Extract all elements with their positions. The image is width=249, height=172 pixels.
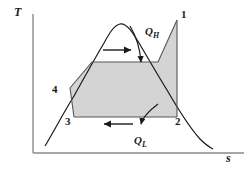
heat-rejected-label: QL [134, 135, 147, 149]
state-label-1: 1 [181, 9, 187, 20]
state-label-3: 3 [65, 116, 71, 127]
heat-input-label: QH [145, 26, 159, 40]
state-label-4: 4 [52, 84, 58, 95]
state-label-2: 2 [175, 116, 181, 127]
x-axis-label: s [226, 152, 231, 164]
heat-input-subscript: H [153, 31, 159, 40]
ts-diagram-figure: T s 1 2 3 4 QH QL [0, 0, 249, 172]
heat-rejected-subscript: L [142, 140, 147, 149]
heat-rejected-symbol: Q [134, 134, 142, 146]
diagram-canvas [0, 0, 249, 172]
y-axis-label: T [14, 6, 21, 18]
heat-input-symbol: Q [145, 25, 153, 37]
